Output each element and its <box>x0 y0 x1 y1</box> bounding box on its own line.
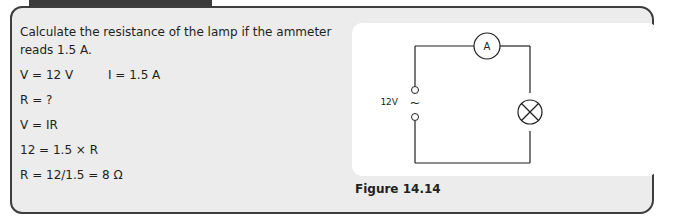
formula: V = IR <box>20 118 58 132</box>
given-voltage: V = 12 V <box>20 68 73 82</box>
svg-text:A: A <box>484 41 491 52</box>
circuit-diagram: A ~ 12V <box>352 23 658 176</box>
given-current: I = 1.5 A <box>108 68 160 82</box>
ac-supply-icon: ~ <box>410 87 421 121</box>
substitution: 12 = 1.5 × R <box>20 143 98 157</box>
lamp-icon <box>518 100 542 124</box>
unknown-resistance: R = ? <box>20 93 52 107</box>
figure-panel: A ~ 12V <box>352 23 658 176</box>
svg-text:~: ~ <box>410 95 421 110</box>
supply-label: 12V <box>380 97 398 107</box>
figure-caption: Figure 14.14 <box>355 182 441 196</box>
answer: R = 12/1.5 = 8 Ω <box>20 168 123 182</box>
question-line-2: reads 1.5 A. <box>20 43 92 57</box>
ammeter-icon: A <box>474 33 500 59</box>
question-line-1: Calculate the resistance of the lamp if … <box>20 25 331 39</box>
